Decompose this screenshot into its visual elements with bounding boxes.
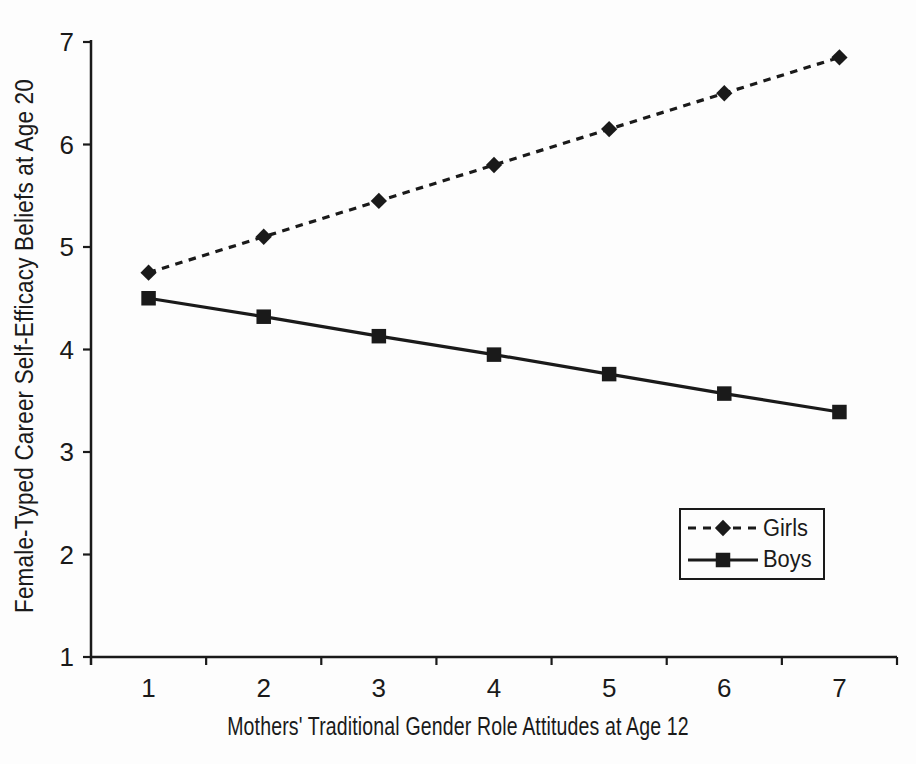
boys-point-4	[487, 347, 502, 362]
y-tick-label-3: 3	[60, 437, 74, 467]
x-tick-label-5: 5	[602, 673, 616, 703]
girls-point-3	[371, 193, 387, 209]
x-tick-label-6: 6	[717, 673, 731, 703]
x-tick-label-7: 7	[832, 673, 846, 703]
girls-dashed-line-sample	[687, 518, 761, 538]
x-tick-label-1: 1	[141, 673, 155, 703]
legend-item-girls: Girls	[687, 515, 823, 542]
girls-sample-marker	[715, 520, 731, 536]
boys-point-7	[832, 405, 847, 420]
y-tick-label-4: 4	[60, 335, 74, 365]
boys-sample-marker	[716, 553, 731, 568]
y-tick-label-7: 7	[60, 27, 74, 57]
legend-item-boys: Boys	[687, 546, 823, 573]
x-tick-label-4: 4	[487, 673, 501, 703]
boys-point-6	[717, 386, 732, 401]
boys-point-2	[256, 309, 271, 324]
y-tick-label-6: 6	[60, 130, 74, 160]
boys-point-3	[372, 329, 387, 344]
girls-point-4	[486, 157, 502, 173]
x-tick-label-2: 2	[256, 673, 270, 703]
chart-figure: 12345671234567 Female-Typed Career Self-…	[0, 0, 916, 764]
line-chart-canvas: 12345671234567	[0, 0, 916, 764]
boys-solid-line-sample	[687, 550, 761, 570]
girls-point-7	[831, 49, 847, 65]
boys-point-5	[602, 367, 617, 382]
girls-point-5	[601, 121, 617, 137]
legend: Girls Boys	[679, 508, 825, 580]
x-tick-label-3: 3	[372, 673, 386, 703]
y-tick-label-1: 1	[60, 642, 74, 672]
y-tick-label-2: 2	[60, 540, 74, 570]
legend-label-girls: Girls	[763, 515, 808, 542]
legend-label-boys: Boys	[763, 546, 812, 573]
y-tick-label-5: 5	[60, 232, 74, 262]
x-axis-title: Mothers' Traditional Gender Role Attitud…	[101, 712, 815, 741]
girls-point-1	[140, 264, 156, 280]
girls-point-2	[256, 229, 272, 245]
y-axis-title: Female-Typed Career Self-Efficacy Belief…	[10, 79, 39, 613]
boys-point-1	[141, 291, 156, 306]
girls-point-6	[716, 85, 732, 101]
